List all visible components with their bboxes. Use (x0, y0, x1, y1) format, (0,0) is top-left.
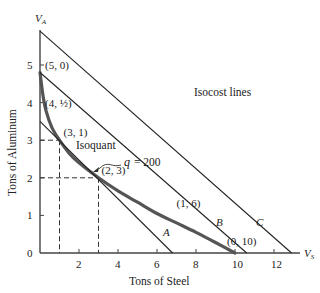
isocost-label-c: C (256, 216, 264, 228)
point-label: (1, 6) (177, 197, 201, 210)
x-tick-label: 10 (232, 258, 244, 270)
y-tick-label: 2 (27, 172, 33, 184)
y-tick-label: 5 (27, 59, 33, 71)
x-tick-label: 6 (154, 258, 160, 270)
dashed-guides (40, 140, 99, 253)
point-label: (0, 10) (227, 235, 257, 248)
origin-label: 0 (27, 247, 33, 259)
q-label: q (124, 155, 130, 169)
isocost-label-a: A (162, 226, 170, 238)
x-tick-label: 2 (76, 258, 82, 270)
arrowhead-icon (93, 167, 99, 172)
x-axis-symbol: VS (304, 247, 315, 261)
isocost-lines-label: Isocost lines (194, 86, 252, 98)
x-tick-label: 8 (193, 258, 199, 270)
point-label: (4, ½) (45, 97, 72, 110)
point-label: (5, 0) (45, 59, 69, 72)
y-axis-title: Tons of Aluminum (6, 109, 18, 196)
x-tick-label: 12 (271, 258, 282, 270)
y-tick-label: 4 (27, 97, 33, 109)
isoquant-label: Isoquant (76, 139, 116, 152)
x-tick-label: 4 (115, 258, 121, 270)
y-tick-label: 3 (27, 134, 33, 146)
x-axis-title: Tons of Steel (129, 275, 190, 287)
isocost-label-b: B (216, 216, 223, 228)
q-value: = 200 (134, 156, 161, 168)
y-tick-label: 1 (27, 209, 33, 221)
y-axis-symbol: VA (35, 12, 47, 26)
isoquant-isocost-chart: VA VS 0 2468101212345 (5, 0)(4, ½)(3, 1)… (0, 0, 320, 293)
point-label: (3, 1) (64, 126, 88, 139)
